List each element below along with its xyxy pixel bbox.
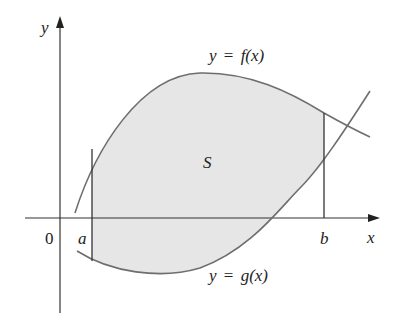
curve-g-label: y = g(x) <box>207 266 268 285</box>
curve-g-label-lhs: y <box>207 266 217 285</box>
region-s-shading <box>75 73 340 274</box>
area-between-curves-diagram: y x 0 a b S y = f(x) y = g(x) <box>0 0 403 330</box>
curve-f-label-eq: = <box>224 46 234 65</box>
curve-g-label-rhs: g(x) <box>241 266 269 285</box>
curve-g-label-eq: = <box>224 266 234 285</box>
x-axis-arrow-icon <box>368 214 380 222</box>
y-axis-arrow-icon <box>56 16 64 28</box>
region-label-s: S <box>203 153 212 172</box>
curve-f-label-rhs: f(x) <box>241 46 265 65</box>
origin-label: 0 <box>45 229 54 248</box>
curve-f-label-lhs: y <box>207 46 217 65</box>
x-axis-label: x <box>366 228 375 247</box>
bound-label-b: b <box>320 229 329 248</box>
y-axis-label: y <box>39 18 49 37</box>
diagram-canvas: y x 0 a b S y = f(x) y = g(x) <box>0 0 403 330</box>
curve-f-label: y = f(x) <box>207 46 265 65</box>
bound-label-a: a <box>78 229 87 248</box>
